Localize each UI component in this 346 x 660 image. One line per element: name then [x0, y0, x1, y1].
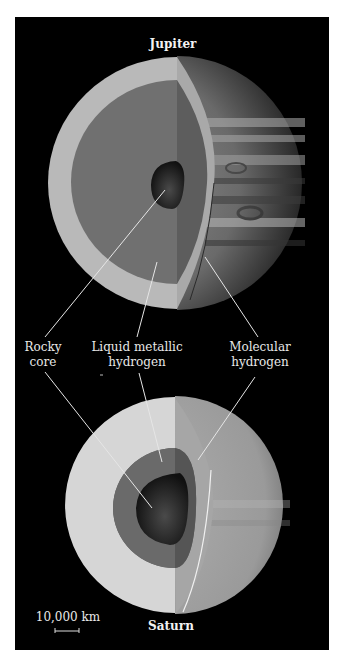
- jupiter-cutaway: [48, 56, 305, 310]
- jupiter-title: Jupiter: [149, 37, 198, 51]
- label-liquid-metallic: Liquid metallic: [91, 340, 183, 354]
- label-rocky: Rocky: [24, 340, 61, 354]
- label-molecular: Molecular: [229, 340, 291, 354]
- saturn-cutaway: [65, 396, 290, 614]
- scale-bar: 10,000 km: [36, 610, 101, 633]
- label-core: core: [30, 355, 57, 369]
- planet-interior-diagram: Jupiter Saturn Rocky core Liquid metalli…: [0, 0, 346, 660]
- label-molecular-hydrogen: hydrogen: [231, 355, 289, 369]
- label-liquid-hydrogen: hydrogen: [108, 355, 166, 369]
- jupiter-cloud-bands: [205, 118, 305, 246]
- scale-bar-label: 10,000 km: [36, 610, 101, 624]
- saturn-title: Saturn: [148, 619, 194, 633]
